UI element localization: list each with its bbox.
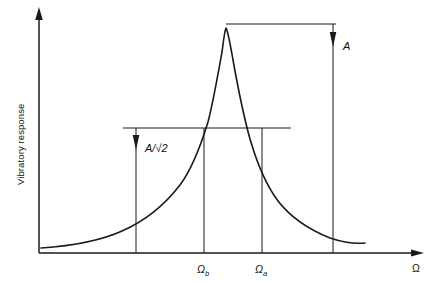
response-curve-group — [41, 28, 365, 248]
amplitude-a-label: A — [342, 40, 350, 52]
amplitude-a-dimension-group: A — [330, 24, 351, 253]
x-axis-group — [39, 249, 424, 256]
vibratory-response-axis-label: Vibratory response — [15, 104, 26, 185]
omega-a-tick-label: Ωa — [255, 263, 267, 278]
x-tick-labels-group: Ωb Ωa — [197, 263, 267, 278]
omega-b-subscript: b — [205, 269, 209, 278]
vibratory-response-curve — [41, 28, 365, 248]
half-power-frequency-droplines-group — [204, 128, 262, 253]
half-power-arrowhead-icon — [133, 135, 140, 150]
omega-b-tick-label: Ωb — [197, 263, 209, 278]
omega-a-symbol: Ω — [255, 263, 263, 275]
y-axis-arrowhead-icon — [35, 7, 43, 20]
omega-a-subscript: a — [263, 269, 267, 278]
resonance-figure-container: A A/√2 Ωb Ωa Ω Vibratory response — [0, 0, 437, 283]
half-power-label: A/√2 — [144, 142, 168, 154]
y-axis-group — [35, 7, 43, 253]
x-axis-arrowhead-icon — [411, 249, 424, 256]
amplitude-a-arrowhead-icon — [330, 32, 337, 47]
omega-b-symbol: Ω — [197, 263, 205, 275]
half-power-dimension-group: A/√2 — [133, 128, 168, 253]
resonance-curve-chart: A A/√2 Ωb Ωa Ω Vibratory response — [0, 0, 437, 283]
omega-axis-label: Ω — [412, 262, 420, 274]
